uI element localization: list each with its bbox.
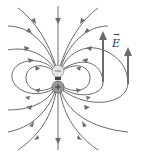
arrow-icon bbox=[55, 138, 61, 144]
field-line bbox=[8, 49, 54, 68]
field-line bbox=[61, 91, 128, 132]
vector-arrow-icon: → bbox=[113, 30, 120, 39]
arrow-icon bbox=[28, 58, 34, 63]
arrow-icon bbox=[86, 96, 91, 100]
arrow-icon bbox=[86, 46, 92, 51]
arrow-icon bbox=[26, 105, 32, 110]
e-field-label: → E bbox=[112, 37, 120, 50]
field-line bbox=[63, 82, 103, 95]
field-line-loop-right-inner bbox=[63, 66, 90, 91]
arrow-icon bbox=[84, 105, 90, 110]
arrow-icon bbox=[82, 121, 87, 127]
field-lines-svg bbox=[0, 0, 141, 155]
arrow-up-icon bbox=[99, 31, 107, 40]
arrow-icon bbox=[76, 66, 81, 71]
arrow-icon bbox=[55, 18, 61, 24]
field-line bbox=[12, 74, 53, 94]
field-line-loop-left-inner bbox=[26, 66, 53, 91]
field-line bbox=[63, 62, 103, 82]
arrow-icon bbox=[35, 88, 40, 93]
dipole-diagram: → E bbox=[0, 0, 141, 155]
arrow-up-icon bbox=[124, 47, 132, 56]
arrow-icon bbox=[76, 88, 81, 93]
dipole-connector bbox=[55, 77, 61, 80]
arrow-icon bbox=[25, 96, 30, 100]
arrow-icon bbox=[35, 66, 40, 71]
